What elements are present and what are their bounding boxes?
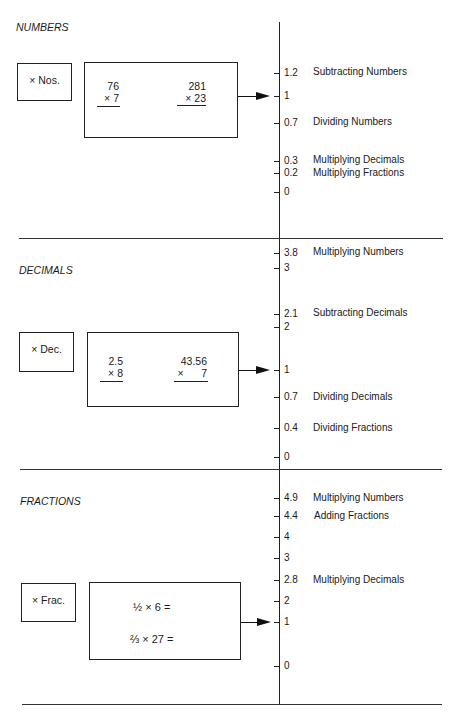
problem-top: 43.56 <box>173 355 207 367</box>
skill-label: Adding Fractions <box>314 510 389 522</box>
skill-label: Dividing Decimals <box>313 391 392 403</box>
scale-value: 1 <box>284 364 290 376</box>
section-divider <box>20 469 442 470</box>
problem-bottom: × 7 <box>173 367 207 379</box>
problem-expression: ½ × 6 = <box>133 601 170 613</box>
problem-box: ½ × 6 = ⅔ × 27 = <box>89 582 241 660</box>
answer-line <box>97 106 120 107</box>
arrow-right-icon <box>256 366 270 374</box>
scale-value: 2.8 <box>284 574 298 586</box>
skill-label: Multiplying Fractions <box>313 167 404 179</box>
scale-value: 0.3 <box>284 155 298 167</box>
scale-value: 2 <box>284 595 290 607</box>
scale-value: 0.7 <box>284 117 298 129</box>
problem-top: 76 <box>97 80 119 92</box>
skill-label: Multiplying Numbers <box>313 492 404 504</box>
section-title: DECIMALS <box>19 264 73 276</box>
skill-label: Dividing Fractions <box>313 422 392 434</box>
section-divider <box>19 238 443 239</box>
problem-top: 2.5 <box>100 355 123 367</box>
multiply-decimals-button[interactable]: × Dec. <box>19 332 74 372</box>
scale-value: 1.2 <box>284 67 298 79</box>
scale-value: 0 <box>284 451 290 463</box>
skill-label: Subtracting Numbers <box>313 66 407 78</box>
skill-label: Dividing Numbers <box>313 116 392 128</box>
section-title: FRACTIONS <box>20 495 81 507</box>
skill-label: Multiplying Decimals <box>313 154 404 166</box>
scale-value: 1 <box>284 90 290 102</box>
multiply-numbers-button[interactable]: × Nos. <box>17 63 72 101</box>
scale-value: 0.4 <box>284 422 298 434</box>
arrow-right-icon <box>257 618 271 626</box>
scale-value: 3 <box>284 552 290 564</box>
scale-value: 3 <box>284 262 290 274</box>
problem-box: 76 × 7 281 × 23 <box>84 62 238 138</box>
arrow-right-icon <box>256 92 270 100</box>
problem-box: 2.5 × 8 43.56 × 7 <box>87 332 239 407</box>
section-divider <box>22 704 442 705</box>
scale-value: 2.1 <box>284 308 298 320</box>
skill-label: Multiplying Decimals <box>313 574 404 586</box>
answer-line <box>100 381 123 382</box>
section-title: NUMBERS <box>16 21 69 33</box>
multiply-fractions-button[interactable]: × Frac. <box>21 583 76 622</box>
scale-value: 0.2 <box>284 167 298 179</box>
problem-bottom: × 7 <box>97 92 119 104</box>
problem-top: 281 <box>177 80 206 92</box>
skill-label: Subtracting Decimals <box>313 307 407 319</box>
scale-value: 4 <box>284 531 290 543</box>
scale-value: 0.7 <box>284 391 298 403</box>
skill-label: Multiplying Numbers <box>313 246 404 258</box>
scale-value: 3.8 <box>284 247 298 259</box>
problem-bottom: × 8 <box>100 367 123 379</box>
problem-bottom: × 23 <box>177 92 206 104</box>
scale-value: 2 <box>284 321 290 333</box>
answer-line <box>177 105 206 106</box>
vertical-scale-axis <box>279 22 280 705</box>
problem-expression: ⅔ × 27 = <box>130 633 173 645</box>
scale-value: 0 <box>284 186 290 198</box>
scale-value: 4.4 <box>284 510 298 522</box>
scale-value: 1 <box>284 616 290 628</box>
scale-value: 4.9 <box>284 492 298 504</box>
scale-value: 0 <box>284 660 290 672</box>
answer-line <box>174 381 208 382</box>
